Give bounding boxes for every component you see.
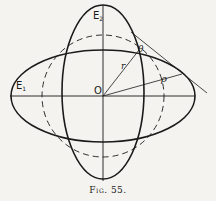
label-r: r [121,61,126,71]
radius-line-r [103,50,139,96]
label-rho: ρ [160,73,167,84]
figure-caption: Fig. 55. [0,185,216,195]
label-e2: E2 [93,10,103,22]
ellipse-diagram: E2 E1 O r θ ρ [0,0,216,201]
figure-55: E2 E1 O r θ ρ Fig. 55. [0,0,216,201]
label-theta: θ [138,44,144,54]
rho-line [103,74,182,96]
label-e1: E1 [16,80,26,92]
label-origin: O [94,85,102,96]
